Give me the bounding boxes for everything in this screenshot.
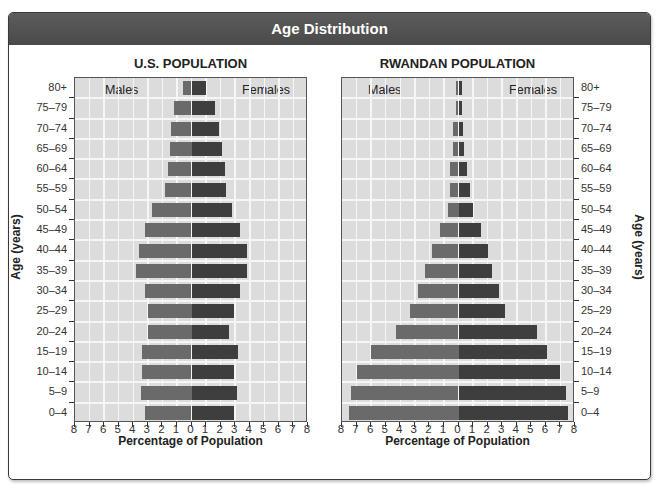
us-panel-title: U.S. POPULATION bbox=[74, 56, 307, 71]
age-group-label: 30–34 bbox=[27, 284, 67, 296]
y-tick bbox=[69, 118, 74, 119]
grid-line bbox=[342, 178, 573, 180]
y-tick bbox=[69, 260, 74, 261]
female-bar bbox=[192, 284, 240, 298]
grid-line bbox=[342, 300, 573, 302]
grid-line bbox=[75, 402, 306, 404]
female-bar bbox=[192, 386, 237, 400]
y-tick bbox=[574, 300, 579, 301]
grid-line bbox=[75, 239, 306, 241]
male-bar bbox=[170, 142, 192, 156]
male-bar bbox=[425, 264, 458, 278]
male-bar bbox=[396, 325, 459, 339]
grid-line bbox=[89, 78, 91, 421]
grid-line bbox=[75, 260, 306, 262]
y-tick bbox=[69, 158, 74, 159]
age-group-label: 25–29 bbox=[581, 304, 621, 316]
age-group-label: 10–14 bbox=[581, 365, 621, 377]
male-bar bbox=[450, 162, 458, 176]
grid-line bbox=[342, 381, 573, 383]
y-tick bbox=[69, 341, 74, 342]
grid-line bbox=[342, 361, 573, 363]
grid-line bbox=[342, 280, 573, 282]
grid-line bbox=[75, 280, 306, 282]
grid-line bbox=[342, 341, 573, 343]
grid-line bbox=[133, 78, 135, 421]
grid-line bbox=[75, 158, 306, 160]
y-tick bbox=[69, 239, 74, 240]
age-group-label: 35–39 bbox=[581, 264, 621, 276]
female-bar bbox=[459, 264, 492, 278]
grid-line bbox=[75, 361, 306, 363]
grid-line bbox=[278, 78, 280, 421]
grid-line bbox=[75, 118, 306, 120]
male-bar bbox=[410, 304, 458, 318]
age-group-label: 80+ bbox=[581, 81, 621, 93]
age-group-label: 75–79 bbox=[581, 101, 621, 113]
male-bar bbox=[183, 81, 192, 95]
male-bar bbox=[139, 244, 191, 258]
female-bar bbox=[192, 325, 230, 339]
grid-line bbox=[342, 219, 573, 221]
y-tick bbox=[69, 219, 74, 220]
female-bar bbox=[459, 162, 468, 176]
age-group-label: 20–24 bbox=[581, 325, 621, 337]
us-pyramid-plot: Males Females bbox=[74, 77, 307, 422]
male-bar bbox=[171, 122, 191, 136]
male-bar bbox=[148, 304, 192, 318]
female-bar bbox=[459, 81, 463, 95]
female-bar bbox=[459, 183, 471, 197]
female-bar bbox=[459, 345, 548, 359]
y-tick bbox=[69, 381, 74, 382]
female-bar bbox=[459, 122, 463, 136]
grid-line bbox=[75, 178, 306, 180]
age-group-label: 40–44 bbox=[581, 243, 621, 255]
age-group-label: 60–64 bbox=[27, 162, 67, 174]
female-bar bbox=[192, 101, 215, 115]
age-group-label: 55–59 bbox=[581, 182, 621, 194]
grid-line bbox=[103, 78, 105, 421]
age-group-label: 45–49 bbox=[27, 223, 67, 235]
female-bar bbox=[192, 122, 220, 136]
age-group-label: 0–4 bbox=[27, 406, 67, 418]
male-bar bbox=[448, 203, 459, 217]
grid-line bbox=[75, 219, 306, 221]
female-bar bbox=[459, 386, 567, 400]
y-tick bbox=[574, 260, 579, 261]
female-bar bbox=[192, 81, 207, 95]
female-bar bbox=[192, 345, 239, 359]
age-group-label: 70–74 bbox=[581, 122, 621, 134]
female-bar bbox=[459, 223, 482, 237]
y-tick bbox=[574, 138, 579, 139]
female-bar bbox=[192, 162, 225, 176]
male-bar bbox=[357, 365, 459, 379]
female-bar bbox=[192, 142, 223, 156]
age-group-label: 80+ bbox=[27, 81, 67, 93]
rwanda-x-axis-title: Percentage of Population bbox=[341, 434, 574, 448]
grid-line bbox=[342, 260, 573, 262]
grid-line bbox=[342, 118, 573, 120]
age-group-label: 35–39 bbox=[27, 264, 67, 276]
grid-line bbox=[342, 199, 573, 201]
y-tick bbox=[574, 97, 579, 98]
female-bar bbox=[192, 223, 240, 237]
male-bar bbox=[432, 244, 458, 258]
grid-line bbox=[75, 97, 306, 99]
female-bar bbox=[192, 183, 227, 197]
grid-line bbox=[75, 138, 306, 140]
age-group-label: 10–14 bbox=[27, 365, 67, 377]
grid-line bbox=[293, 78, 295, 421]
age-group-label: 65–69 bbox=[27, 142, 67, 154]
grid-line bbox=[342, 321, 573, 323]
age-group-label: 20–24 bbox=[27, 325, 67, 337]
left-y-axis-title: Age (years) bbox=[9, 214, 23, 279]
female-bar bbox=[192, 304, 234, 318]
male-bar bbox=[145, 406, 192, 420]
grid-line bbox=[75, 300, 306, 302]
male-bar bbox=[174, 101, 191, 115]
age-group-label: 15–19 bbox=[581, 345, 621, 357]
female-bar bbox=[459, 244, 488, 258]
grid-line bbox=[342, 158, 573, 160]
male-bar bbox=[351, 386, 459, 400]
y-tick bbox=[69, 300, 74, 301]
